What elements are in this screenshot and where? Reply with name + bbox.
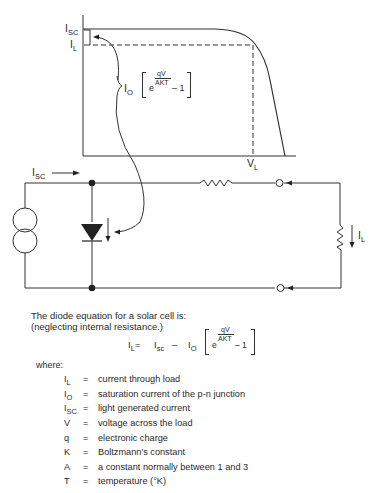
terminal-top (276, 180, 283, 187)
terminal-bottom (277, 285, 284, 292)
definition-row: V = voltage across the load (64, 416, 248, 431)
diode-icon (81, 224, 103, 241)
annotation-minus-one: – 1 (172, 83, 185, 93)
intro-line-1: The diode equation for a solar cell is: (31, 311, 186, 321)
eq-exp-num: qV (221, 326, 230, 333)
label-circuit-il: IL (358, 230, 365, 241)
label-isc-sub: SC (68, 28, 78, 37)
diode-equation: IL= Isc – IO e qV AKT – 1 (128, 322, 248, 358)
annotation-brace (117, 76, 122, 96)
eq-term2: IO (188, 339, 196, 350)
definition-row: IL = current through load (64, 372, 248, 387)
solar-cell-diagram (0, 0, 376, 300)
label-vl-sub: L (254, 163, 258, 172)
isc-arrowhead (73, 171, 80, 176)
junction-bottom (89, 285, 96, 292)
definition-row: A = a constant normally between 1 and 3 (64, 460, 248, 475)
label-circuit-isc: ISC (32, 167, 45, 178)
definition-row: IO = saturation current of the p-n junct… (64, 387, 248, 402)
current-source-circle-top (13, 208, 37, 232)
pointer-curve-top (96, 37, 119, 80)
definition-row: ISC = light generated current (64, 401, 248, 416)
definition-row: T = temperature (°K) (64, 474, 248, 489)
definition-row: K = Boltzmann's constant (64, 445, 248, 460)
annotation-exp-num: qV (157, 70, 166, 77)
label-il-sub: L (73, 44, 77, 53)
eq-minus: – (172, 339, 177, 350)
current-source-circle-bottom (13, 229, 37, 253)
eq-term1: Isc (154, 339, 164, 350)
pointer-curve-diode (116, 96, 144, 232)
where-label: where: (36, 361, 63, 370)
difference-bracket (84, 30, 90, 45)
load-resistor (337, 225, 343, 250)
label-isc: ISC (65, 23, 78, 34)
label-vl: VL (247, 158, 258, 169)
annotation-exp-den: AKT (155, 79, 169, 86)
label-il: IL (70, 39, 77, 50)
eq-minus-one: – 1 (235, 340, 247, 350)
terminal-top-arrowhead (286, 181, 292, 186)
eq-exp-den: AKT (218, 335, 232, 342)
definition-row: q = electronic charge (64, 430, 248, 445)
annotation-io: IO (124, 82, 133, 94)
eq-exp-base: e (212, 340, 217, 350)
definitions-list: IL = current through load IO = saturatio… (64, 372, 248, 489)
annotation-exp-base: e (149, 83, 154, 93)
label-vl-main: V (247, 157, 254, 169)
graph-annotation: IO e qV AKT – 1 (124, 68, 194, 100)
junction-top (89, 180, 96, 187)
eq-lhs: IL= (128, 339, 140, 350)
terminal-bottom-arrowhead (287, 286, 293, 291)
